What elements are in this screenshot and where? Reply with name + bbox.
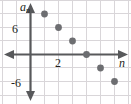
sequence-scatter-plot: a n n 6 -6 2 [0,0,131,104]
data-point [55,24,62,31]
y-tick-label-minus-6: -6 [11,76,21,90]
data-point [97,65,104,72]
data-point [41,11,48,18]
data-point [83,51,90,58]
x-tick-label-2: 2 [55,56,61,70]
x-axis-label: n [119,56,125,70]
y-tick-label-6: 6 [12,22,18,36]
data-point [111,78,118,85]
plot-canvas: a n n 6 -6 2 [0,0,131,104]
y-axis-label-subscript: n [26,6,30,15]
data-point [69,38,76,45]
